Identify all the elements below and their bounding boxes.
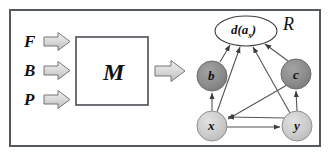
node-label-c: c [293, 68, 299, 81]
input-label-p: P [24, 91, 34, 108]
node-label-d-suffix: ) [252, 22, 256, 37]
edge-c-to-x [228, 85, 287, 119]
input-label-b: B [24, 62, 35, 79]
node-label-y: y [294, 119, 300, 132]
node-label-x: x [208, 119, 215, 132]
edge-b-to-d [220, 45, 230, 62]
node-label-b: b [208, 69, 215, 82]
region-label: R [283, 15, 294, 33]
node-label-d-main: d(a [231, 22, 248, 37]
edge-y-to-c [296, 91, 297, 111]
block-arrow-f [44, 33, 70, 51]
block-arrow-model-output [155, 61, 185, 82]
block-arrow-p [44, 91, 70, 109]
input-label-f: F [24, 33, 35, 50]
model-box-label: M [103, 60, 124, 84]
node-label-d: d(as) [231, 23, 256, 40]
diagram-canvas [0, 0, 330, 158]
graph-edges [212, 44, 297, 127]
diagram-root: F B P M R d(as) b c x y [0, 0, 330, 158]
edge-y-to-x [228, 117, 285, 118]
edge-c-to-d [265, 44, 288, 61]
block-arrow-b [44, 62, 70, 80]
